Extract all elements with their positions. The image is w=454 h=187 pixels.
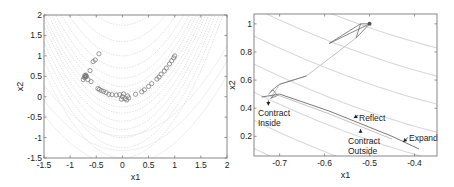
simplex-path-segment	[271, 76, 307, 91]
annotation-contract-inside: Contract	[258, 108, 291, 118]
x-tick-label: -0.7	[272, 158, 287, 168]
figure: -1.5-1-0.500.511.52-1.5-1-0.500.511.52x1…	[0, 0, 454, 187]
y-tick-label: 2	[37, 10, 42, 20]
annotation-reflect: Reflect	[359, 113, 386, 123]
scatter-points	[81, 52, 177, 102]
data-point	[150, 82, 154, 86]
x-tick-label: -0.4	[407, 158, 422, 168]
x-axis-label: x1	[131, 172, 141, 182]
y-tick-label: 1	[37, 51, 42, 61]
contour-lines	[39, 0, 230, 165]
y-tick-label: 1.5	[30, 30, 42, 40]
y-axis-label: x2	[15, 82, 25, 92]
annotation-contract-outside: Outside	[348, 146, 378, 156]
annotation-contract-outside: Contract	[348, 136, 381, 146]
x-tick-label: -0.5	[89, 160, 104, 170]
x-tick-label: -0.6	[317, 158, 332, 168]
x-tick-label: 0	[120, 160, 125, 170]
y-axis-label: x2	[227, 80, 237, 90]
data-point	[133, 92, 137, 96]
y-tick-label: -0.5	[27, 112, 42, 122]
annotation-arrow-icon	[359, 129, 363, 133]
y-tick-label: 0.5	[30, 71, 42, 81]
annotation-contract-inside: Inside	[258, 118, 281, 128]
simplex-path-start	[329, 24, 370, 44]
x-tick-label: -0.5	[362, 158, 377, 168]
start-point-marker	[368, 22, 372, 26]
data-point	[162, 69, 166, 73]
y-tick-label: -1	[34, 133, 42, 143]
data-point	[89, 80, 93, 84]
y-tick-label: 0.6	[240, 75, 252, 85]
x-tick-label: 0.5	[143, 160, 155, 170]
annotation-arrow-icon	[266, 102, 270, 106]
y-tick-label: 0.2	[240, 131, 252, 141]
x-tick-label: 1	[172, 160, 177, 170]
y-tick-label: 0	[37, 92, 42, 102]
y-tick-label: 0.4	[240, 103, 252, 113]
annotations: ContractInsideReflectContractOutsideExpa…	[258, 100, 438, 156]
x-axis-label: x1	[341, 170, 351, 180]
y-tick-label: 1	[247, 19, 252, 29]
x-tick-label: -1	[66, 160, 74, 170]
data-point	[164, 66, 168, 70]
left-scatter-plot: -1.5-1-0.500.511.52-1.5-1-0.500.511.52x1…	[15, 0, 230, 182]
y-tick-label: 0.8	[240, 47, 252, 57]
simplex-path-descent	[262, 94, 419, 149]
x-tick-label: 2	[225, 160, 230, 170]
right-simplex-path-plot: ContractInsideReflectContractOutsideExpa…	[227, 0, 442, 187]
y-tick-label: -1.5	[27, 153, 42, 163]
annotation-expand: Expand	[409, 133, 438, 143]
x-tick-label: 1.5	[195, 160, 207, 170]
data-point	[97, 52, 101, 56]
